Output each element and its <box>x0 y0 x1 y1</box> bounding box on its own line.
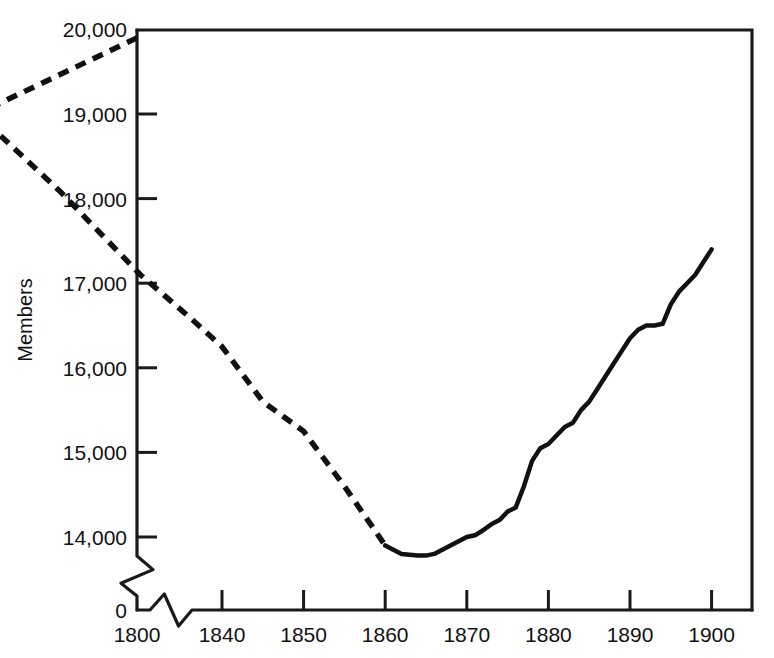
y-tick-label: 0 <box>115 599 127 622</box>
plot-frame <box>137 30 752 610</box>
frame-border <box>137 30 752 610</box>
y-tick-label: 20,000 <box>63 18 127 41</box>
x-axis: 18001840185018601870188018901900 <box>114 590 752 646</box>
members-line-chart: 20,00019,00018,00017,00016,00015,00014,0… <box>0 0 774 658</box>
y-tick-label: 19,000 <box>63 103 127 126</box>
y-tick-label: 15,000 <box>63 441 127 464</box>
y-tick-label: 14,000 <box>63 526 127 549</box>
x-tick-label: 1840 <box>199 623 246 646</box>
y-tick-marks <box>137 114 157 537</box>
x-tick-label: 1800 <box>114 623 161 646</box>
x-tick-label: 1890 <box>607 623 654 646</box>
y-axis: 20,00019,00018,00017,00016,00015,00014,0… <box>63 18 157 622</box>
chart-container: 20,00019,00018,00017,00016,00015,00014,0… <box>0 0 774 658</box>
x-tick-label: 1860 <box>362 623 409 646</box>
x-tick-label: 1900 <box>688 623 735 646</box>
series-line-recorded <box>385 249 711 555</box>
x-axis-line <box>137 594 752 626</box>
x-tick-label: 1870 <box>443 623 490 646</box>
y-axis-title: Members <box>14 278 36 361</box>
y-tick-label: 17,000 <box>63 272 127 295</box>
x-tick-marks <box>222 590 712 610</box>
y-tick-labels: 20,00019,00018,00017,00016,00015,00014,0… <box>63 18 127 622</box>
x-tick-label: 1850 <box>280 623 327 646</box>
x-tick-label: 1880 <box>525 623 572 646</box>
series-line-estimated <box>0 38 385 546</box>
x-tick-labels: 18001840185018601870188018901900 <box>114 623 735 646</box>
y-tick-label: 16,000 <box>63 357 127 380</box>
